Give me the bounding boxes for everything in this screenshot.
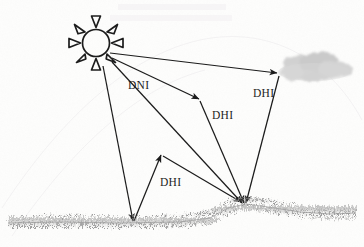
- label-dhi-mid: DHI: [212, 109, 233, 121]
- label-dhi-cloud: DHI: [253, 87, 274, 99]
- label-dhi-ground: DHI: [160, 176, 181, 188]
- diagram-canvas: DNI DHI DHI DHI: [0, 0, 364, 247]
- solar-irradiance-diagram: DNI DHI DHI DHI: [0, 0, 364, 247]
- label-dni: DNI: [128, 79, 149, 91]
